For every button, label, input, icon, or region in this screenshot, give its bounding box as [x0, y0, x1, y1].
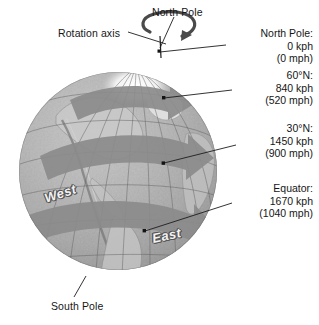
label-rotation-axis: Rotation axis	[58, 27, 120, 40]
label-north-pole-top: North Pole	[152, 6, 203, 19]
label-south-pole: South Pole	[51, 300, 103, 313]
callout-equator: Equator: 1670 kph (1040 mph)	[259, 182, 313, 220]
callout-north-pole-mph: (0 mph)	[260, 52, 313, 65]
callout-equator-kph: 1670 kph	[259, 195, 313, 208]
callout-north-pole: North Pole: 0 kph (0 mph)	[260, 27, 313, 65]
callout-60n: 60°N: 840 kph (520 mph)	[265, 69, 313, 107]
callout-60n-title: 60°N:	[265, 69, 313, 82]
callout-north-pole-title: North Pole:	[260, 27, 313, 40]
callout-equator-title: Equator:	[259, 182, 313, 195]
callout-30n-kph: 1450 kph	[265, 135, 313, 148]
callout-60n-mph: (520 mph)	[265, 94, 313, 107]
callout-30n: 30°N: 1450 kph (900 mph)	[265, 122, 313, 160]
callout-30n-mph: (900 mph)	[265, 147, 313, 160]
callout-equator-mph: (1040 mph)	[259, 207, 313, 220]
callout-north-pole-kph: 0 kph	[260, 40, 313, 53]
callout-60n-kph: 840 kph	[265, 82, 313, 95]
figure-root: West East	[0, 0, 319, 325]
earth-globe	[18, 38, 218, 304]
globe-graphic	[18, 38, 218, 304]
callout-30n-title: 30°N:	[265, 122, 313, 135]
